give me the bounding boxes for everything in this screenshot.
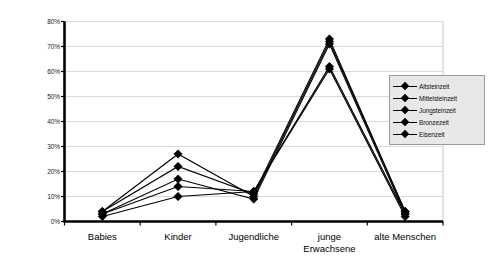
y-tick-label: 0% (30, 218, 60, 225)
y-tick-label: 10% (30, 193, 60, 200)
chart-legend: AltsteinzeitMittelsteinzeitJungsteinzeit… (389, 75, 485, 145)
y-tick-label: 60% (30, 68, 60, 75)
legend-marker-icon (393, 81, 417, 91)
legend-item[interactable]: Bronzezeit (393, 116, 480, 128)
legend-marker-icon (393, 105, 417, 115)
legend-marker-icon (393, 93, 417, 103)
legend-item[interactable]: Mittelsteinzeit (393, 92, 480, 104)
legend-marker-icon (393, 129, 417, 139)
y-tick-label: 40% (30, 118, 60, 125)
legend-item-label: Mittelsteinzeit (417, 95, 457, 102)
legend-item[interactable]: Altsteinzeit (393, 80, 480, 92)
chart-container: Anteil pro Epoche 0%10%20%30%40%50%60%70… (0, 0, 491, 264)
legend-item-label: Altsteinzeit (417, 83, 449, 90)
legend-marker-icon (393, 117, 417, 127)
y-tick-label: 50% (30, 93, 60, 100)
y-tick-label: 30% (30, 143, 60, 150)
legend-item[interactable]: Jungsteinzeit (393, 104, 480, 116)
legend-item-label: Eisenzeit (417, 131, 444, 138)
y-tick-label: 70% (30, 43, 60, 50)
x-tick-label: alte Menschen (355, 231, 455, 243)
legend-item[interactable]: Eisenzeit (393, 128, 480, 140)
legend-item-label: Jungsteinzeit (417, 107, 456, 114)
y-tick-label: 80% (30, 18, 60, 25)
y-tick-label: 20% (30, 168, 60, 175)
legend-item-label: Bronzezeit (417, 119, 449, 126)
